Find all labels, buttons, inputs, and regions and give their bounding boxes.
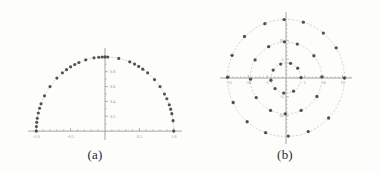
y-tick-label: 0.6 [110, 84, 115, 89]
data-point [232, 101, 235, 104]
data-point [226, 76, 229, 79]
x-tick-label: 5 [304, 80, 306, 85]
figure-root: -1.0-0.50.51.00.20.40.60.8 (a) -15-10-55… [0, 0, 380, 173]
panel-a: -1.0-0.50.51.00.20.40.60.8 (a) [0, 0, 190, 173]
data-point [312, 54, 315, 57]
data-point [103, 55, 106, 58]
data-point [165, 97, 168, 100]
data-point [141, 68, 144, 71]
data-point [158, 85, 161, 88]
data-point [84, 58, 87, 61]
x-tick-label: 0.5 [137, 134, 142, 139]
data-point [43, 94, 46, 97]
data-point [269, 109, 272, 112]
data-point [65, 68, 68, 71]
data-point [327, 116, 330, 119]
data-point [73, 63, 76, 66]
data-point [264, 131, 267, 134]
x-tick-label: -15 [227, 80, 232, 85]
data-point [101, 55, 104, 58]
data-point [307, 130, 310, 133]
x-tick-label: -0.5 [67, 134, 74, 139]
data-point [279, 62, 282, 65]
data-point [284, 112, 287, 115]
data-point [61, 71, 64, 74]
data-point [320, 75, 323, 78]
data-point [172, 119, 175, 122]
data-point [287, 134, 290, 137]
x-tick-label: -10 [246, 80, 251, 85]
data-point [296, 67, 299, 70]
data-point [170, 112, 173, 115]
data-point [106, 55, 109, 58]
data-point [48, 85, 51, 88]
data-point [172, 130, 175, 133]
data-point [292, 90, 295, 93]
data-point [299, 76, 302, 79]
data-point [37, 112, 40, 115]
data-point [40, 102, 43, 105]
data-point [289, 62, 292, 65]
x-tick-label: 1.0 [171, 134, 176, 139]
data-point [38, 107, 41, 110]
data-point [35, 125, 38, 128]
y-tick-label: 5 [282, 57, 284, 62]
data-point [272, 68, 275, 71]
data-point [35, 130, 38, 133]
data-point [296, 42, 299, 45]
panel-a-caption: (a) [0, 147, 190, 163]
panel-b-caption: (b) [190, 147, 380, 163]
data-point [92, 56, 95, 59]
x-tick-label: 10 [322, 80, 326, 85]
data-point [137, 65, 140, 68]
data-point [282, 91, 285, 94]
data-point [146, 71, 149, 74]
x-tick-label: 15 [341, 80, 345, 85]
data-point [77, 61, 80, 64]
data-point [128, 60, 131, 63]
data-point [343, 76, 346, 79]
y-tick-label: 0.4 [110, 99, 116, 104]
data-point [255, 96, 258, 99]
data-point [273, 87, 276, 90]
data-point [263, 22, 266, 25]
data-point [283, 40, 286, 43]
data-point [243, 35, 246, 38]
data-point [69, 65, 72, 68]
data-point [315, 95, 318, 98]
data-point [55, 77, 58, 80]
data-point [35, 121, 38, 124]
data-point [230, 54, 233, 57]
data-point [249, 77, 252, 80]
data-point [253, 58, 256, 61]
data-point [246, 120, 249, 123]
data-point [153, 78, 156, 81]
data-point [335, 46, 338, 49]
data-point [302, 21, 305, 24]
data-point [269, 79, 272, 82]
x-tick-label: -1.0 [33, 134, 40, 139]
y-tick-label: -10 [278, 113, 283, 118]
data-point [299, 109, 302, 112]
y-tick-label: 0.2 [110, 114, 115, 119]
data-point [117, 57, 120, 60]
data-point [163, 92, 166, 95]
data-point [168, 103, 171, 106]
y-tick-label: -5 [280, 94, 283, 99]
data-point [322, 31, 325, 34]
data-point [169, 108, 172, 111]
panel-b: -15-10-551015-10-5510 (b) [190, 0, 380, 173]
data-point [282, 18, 285, 21]
data-point [36, 117, 39, 120]
y-tick-label: 0.8 [110, 69, 115, 74]
data-point [267, 45, 270, 48]
data-point [133, 63, 136, 66]
data-point [97, 56, 100, 59]
x-tick-label: -5 [265, 80, 268, 85]
